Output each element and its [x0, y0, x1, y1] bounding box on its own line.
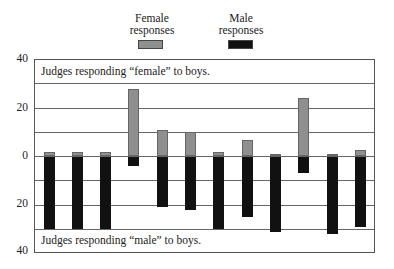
legend-female-label: Female responses: [112, 12, 192, 36]
annotation-bottom: Judges responding “male” to boys.: [41, 234, 201, 246]
bar-male: [185, 157, 196, 210]
bar-male: [270, 157, 281, 232]
bar-male: [355, 157, 366, 227]
ytick-20-bottom: 20: [4, 197, 28, 209]
bar-male: [213, 157, 224, 230]
legend-male-line2: responses: [201, 24, 281, 36]
bar-female: [185, 132, 196, 156]
gridline: [35, 108, 374, 109]
bar-male: [100, 157, 111, 230]
bar-male: [157, 157, 168, 208]
bar-female: [242, 140, 253, 157]
gridline: [35, 229, 374, 230]
bar-male: [242, 157, 253, 218]
gridline: [35, 205, 374, 206]
gridline: [35, 132, 374, 133]
zero-line: [35, 156, 374, 157]
ytick-20-top: 20: [4, 101, 28, 113]
gridline: [35, 83, 374, 84]
legend-female-line1: Female: [112, 12, 192, 24]
legend-male-label: Male responses: [201, 12, 281, 36]
annotation-top: Judges responding “female” to boys.: [41, 65, 210, 77]
bar-male: [72, 157, 83, 230]
bar-male: [298, 157, 309, 174]
bar-male: [128, 157, 139, 167]
bar-male: [44, 157, 55, 230]
gridline: [35, 180, 374, 181]
legend-male-swatch: [228, 40, 253, 49]
bar-female: [298, 98, 309, 156]
ytick-0: 0: [4, 149, 28, 161]
bar-male: [327, 157, 338, 234]
legend-female-line2: responses: [112, 24, 192, 36]
legend-male-line1: Male: [201, 12, 281, 24]
legend-female-swatch: [138, 40, 163, 49]
plot-area: Judges responding “female” to boys. Judg…: [34, 59, 375, 253]
ytick-40-top: 40: [4, 52, 28, 64]
ytick-40-bottom: 40: [4, 244, 28, 256]
bar-female: [128, 89, 139, 157]
bar-female: [157, 130, 168, 157]
